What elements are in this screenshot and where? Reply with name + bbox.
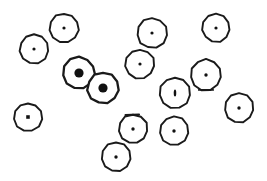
circle-marker: [14, 104, 42, 131]
circle-marker: [50, 14, 79, 42]
circle-marker: [125, 50, 154, 78]
circle-center-dot: [114, 155, 117, 158]
scatter-canvas: [0, 0, 267, 181]
circle-marker: [102, 142, 131, 170]
circle-center-dot: [98, 83, 107, 92]
circle-center-dot: [131, 127, 134, 130]
circle-marker: [119, 115, 147, 143]
circle-marker: [225, 93, 253, 122]
circle-center-dot: [138, 62, 141, 65]
circle-center-dot: [214, 26, 217, 29]
circle-marker: [20, 34, 48, 63]
circle-center-dot: [74, 68, 83, 77]
circle-center-dot: [174, 89, 177, 96]
circle-center-dot: [172, 129, 175, 132]
circle-marker: [160, 116, 188, 144]
circle-center-dot: [237, 106, 240, 109]
circle-marker: [191, 59, 221, 90]
circle-marker: [202, 14, 229, 42]
circle-center-dot: [204, 73, 207, 76]
circle-center-dot: [62, 26, 65, 29]
circle-center-dot: [150, 31, 153, 34]
circle-markers-layer: [14, 14, 253, 171]
circle-center-dot: [32, 47, 35, 50]
circle-marker: [160, 78, 190, 108]
circle-marker: [138, 18, 167, 48]
circle-scatter-plot: [0, 0, 267, 181]
circle-center-dot: [26, 115, 30, 119]
circle-marker: [87, 73, 119, 103]
